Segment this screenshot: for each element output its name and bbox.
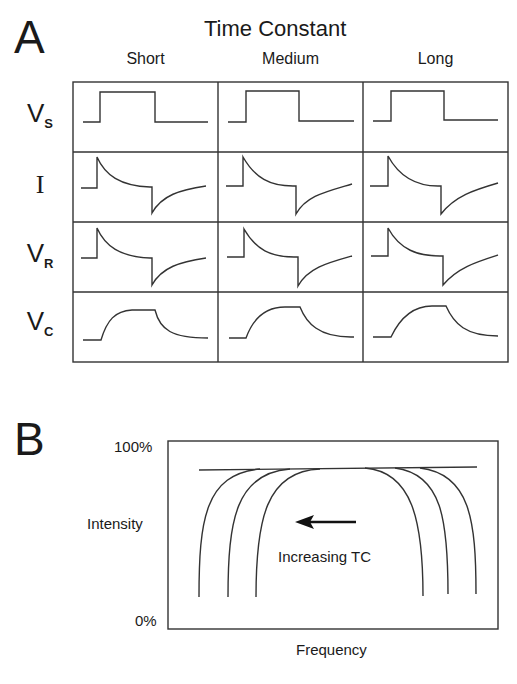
vs-waveform-long — [373, 91, 498, 121]
x-axis-label: Frequency — [296, 641, 367, 658]
vs-waveform-short — [83, 92, 208, 122]
frequency-response-plot — [168, 441, 498, 629]
increasing-tc-annotation: Increasing TC — [278, 548, 371, 565]
y-axis-label: Intensity — [87, 515, 143, 532]
vs-waveform-medium — [228, 91, 354, 122]
y-axis-top-label: 100% — [114, 438, 152, 455]
waveform-grid — [0, 0, 517, 684]
arrow-left-icon — [295, 515, 356, 529]
panel-b-letter: B — [14, 416, 45, 462]
y-axis-bottom-label: 0% — [135, 612, 157, 629]
